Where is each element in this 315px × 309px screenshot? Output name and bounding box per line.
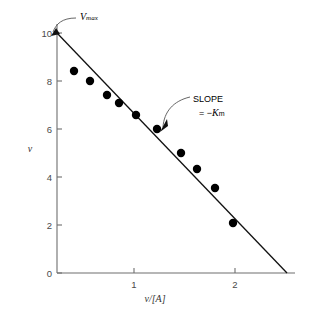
x-axis-title: v/[A] (144, 293, 165, 304)
vmax-subscript: max (86, 14, 98, 22)
y-tick-label-2: 2 (47, 220, 52, 231)
x-tick-label-group: 1 2 (131, 279, 237, 290)
y-tick-label-6: 6 (47, 124, 52, 135)
slope-label: SLOPE = −Km (193, 91, 225, 120)
x-tick-label-2: 2 (232, 279, 237, 290)
y-tick-label-group: 10 8 6 4 2 0 (41, 28, 52, 279)
slope-equals-minus: = − (199, 108, 212, 118)
km-symbol: K (212, 107, 219, 118)
data-point (153, 125, 161, 133)
y-tick-label-0: 0 (47, 268, 52, 279)
x-tick-group (134, 268, 235, 273)
regression-line (57, 33, 287, 273)
data-point (177, 149, 185, 157)
y-tick-label-8: 8 (47, 76, 52, 87)
data-point (193, 165, 201, 173)
data-point (70, 67, 78, 75)
y-tick-label-4: 4 (47, 172, 52, 183)
slope-label-line2: = −Km (193, 105, 225, 120)
y-tick-label-10: 10 (41, 28, 52, 39)
data-point (86, 77, 94, 85)
data-point (211, 184, 219, 192)
slope-annotation-group (160, 97, 190, 132)
chart-canvas: 10 8 6 4 2 0 1 2 v v/[A] (0, 0, 315, 309)
data-point (115, 99, 123, 107)
vmax-annotation-group (51, 18, 76, 36)
slope-word: SLOPE (193, 94, 223, 104)
axes-group (57, 24, 295, 273)
vmax-label: Vmax (80, 6, 98, 24)
y-axis-title: v (28, 143, 33, 154)
data-point (132, 111, 140, 119)
y-tick-group (57, 33, 62, 273)
x-tick-label-1: 1 (131, 279, 136, 290)
data-point (103, 91, 111, 99)
slope-label-line1: SLOPE (193, 91, 225, 105)
eadie-hofstee-plot-figure: 10 8 6 4 2 0 1 2 v v/[A] (0, 0, 315, 309)
km-subscript: m (219, 110, 225, 117)
data-point (229, 219, 237, 227)
